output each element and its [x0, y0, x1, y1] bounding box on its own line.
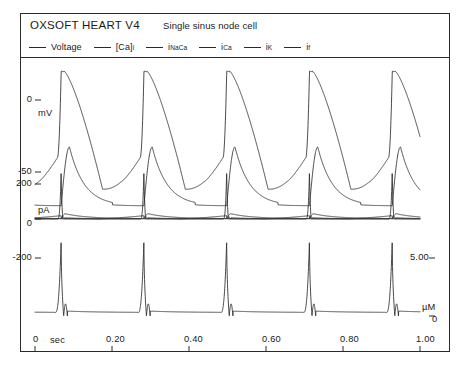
legend-swatch-ca-i — [94, 47, 111, 48]
trace-ca-i-um — [35, 243, 420, 316]
legend-item-i-f[interactable]: if — [284, 42, 310, 52]
legend-sub-i-naca: NaCa — [170, 44, 187, 51]
legend-swatch-voltage — [29, 47, 46, 48]
legend-swatch-i-k — [244, 47, 261, 48]
legend-label-ca-i: [Ca] — [116, 42, 133, 52]
chart-header: OXSOFT HEART V4 Single sinus node cell V… — [20, 13, 450, 58]
app-title: OXSOFT HEART V4 — [30, 19, 140, 31]
trace-canvas — [20, 58, 450, 352]
legend-item-i-k[interactable]: iK — [244, 42, 273, 52]
legend-item-voltage[interactable]: Voltage — [29, 42, 82, 52]
legend-swatch-i-ca — [199, 47, 216, 48]
legend-sub-i-k: K — [268, 44, 272, 51]
axis-tick-marks — [35, 100, 435, 352]
chart-plot-area — [20, 58, 450, 352]
trace-voltage — [35, 71, 420, 189]
legend-swatch-i-naca — [146, 47, 163, 48]
legend-swatch-i-f — [284, 47, 301, 48]
trace-i-ca — [35, 174, 420, 219]
plot-window: OXSOFT HEART V4 Single sinus node cell V… — [0, 0, 472, 365]
cell-model-title: Single sinus node cell — [163, 20, 257, 31]
legend-item-i-naca[interactable]: iNaCa — [146, 42, 187, 52]
legend-label-voltage: Voltage — [51, 42, 82, 52]
legend: Voltage [Ca]i iNaCa iCa iK — [29, 39, 310, 55]
legend-item-i-ca[interactable]: iCa — [199, 42, 232, 52]
legend-item-ca-i[interactable]: [Ca]i — [94, 42, 134, 52]
legend-sub-i-ca: Ca — [223, 44, 231, 51]
legend-sub-ca-i: i — [133, 44, 134, 51]
legend-sub-i-f: f — [308, 44, 310, 51]
